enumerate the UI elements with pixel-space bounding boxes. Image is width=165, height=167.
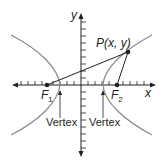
focus-f2-point: [115, 83, 120, 88]
vertex-pointer-right: [101, 90, 105, 118]
y-axis-label: y: [71, 9, 77, 21]
focus-f2-subscript: 2: [118, 95, 122, 104]
y-axis-bottom-arrow-icon: [79, 151, 84, 157]
vertex-label-left: Vertex: [46, 117, 77, 128]
focus-f1-point: [45, 83, 50, 88]
diagram-graphics: [0, 0, 165, 167]
hyperbola-diagram: y x P(x, y) F1 F2 Vertex Vertex: [0, 0, 165, 167]
point-p-label: P(x, y): [96, 37, 131, 49]
point-p: [126, 50, 131, 55]
x-axis-label: x: [145, 87, 151, 99]
x-axis-ticks: [21, 81, 144, 85]
x-axis-left-arrow-icon: [12, 83, 18, 88]
vertex-label-right: Vertex: [89, 117, 120, 128]
y-axis-top-arrow-icon: [79, 13, 84, 19]
segment-f2-to-p: [117, 52, 128, 85]
focus-f1-label: F1: [41, 89, 53, 104]
segment-f1-to-p: [47, 52, 128, 85]
focus-f1-subscript: 1: [48, 95, 52, 104]
focus-f2-label: F2: [111, 89, 123, 104]
vertex-pointer-left: [58, 90, 62, 118]
